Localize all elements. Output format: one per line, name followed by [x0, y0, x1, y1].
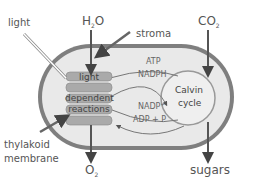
chloroplast-diagram: light H2O stroma CO2 light dependent rea… — [0, 0, 264, 186]
co2-subscript: 2 — [216, 22, 220, 29]
light-dependent-line3: reactions — [65, 105, 113, 114]
oxygen-label: O2 — [85, 164, 98, 178]
water-h: H — [82, 14, 91, 28]
light-dependent-line2: dependent — [65, 94, 113, 103]
calvin-line1: Calvin — [175, 86, 203, 95]
thylakoid-label-line1: thylakoid — [4, 140, 50, 150]
light-dependent-line1: light — [65, 73, 113, 82]
adp-label: ADP + P — [133, 116, 166, 124]
thylakoid-disc — [66, 116, 112, 125]
thylakoid-disc — [66, 83, 112, 92]
nadph-label: NADPH — [138, 71, 166, 79]
sugars-label: sugars — [190, 164, 230, 176]
atp-label: ATP — [146, 58, 161, 66]
calvin-line2: cycle — [178, 99, 201, 108]
water-label: H2O — [82, 15, 104, 29]
co2-text: CO — [198, 14, 216, 28]
co2-label: CO2 — [198, 15, 220, 29]
nadp-label: NADP⁺ — [138, 103, 165, 111]
stroma-label: stroma — [136, 29, 171, 39]
water-o: O — [95, 14, 104, 28]
thylakoid-label-line2: membrane — [4, 154, 59, 164]
oxygen-subscript: 2 — [94, 171, 98, 178]
light-label: light — [8, 18, 30, 28]
